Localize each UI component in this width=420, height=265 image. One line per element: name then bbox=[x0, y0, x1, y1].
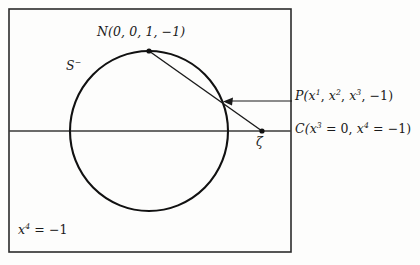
point-p-sep1: , bbox=[321, 88, 329, 103]
point-c-x4: x bbox=[357, 121, 364, 136]
north-pole-label: N(0, 0, 1, −1) bbox=[97, 26, 185, 39]
point-c-close: ) bbox=[406, 121, 411, 136]
projection-ray bbox=[149, 51, 262, 131]
point-p-x2: x bbox=[329, 88, 336, 103]
point-p-open: P( bbox=[295, 88, 309, 103]
point-p-sep3: , bbox=[361, 88, 369, 103]
point-p-minus-one: −1 bbox=[370, 88, 389, 103]
point-p-close: ) bbox=[388, 88, 393, 103]
hyperplane-label: x4 = −1 bbox=[18, 224, 68, 237]
north-pole-point bbox=[146, 48, 151, 53]
point-p-x1: x bbox=[309, 88, 316, 103]
point-c-open: C( bbox=[295, 121, 310, 136]
sphere-label-symbol: S bbox=[66, 58, 75, 73]
sphere-label-superscript: − bbox=[75, 58, 82, 67]
zeta-point bbox=[259, 128, 264, 133]
sphere-label: S− bbox=[66, 60, 81, 73]
point-c-x3: x bbox=[310, 121, 317, 136]
zeta-label-symbol: ζ bbox=[256, 134, 263, 149]
point-c-eq2: = −1 bbox=[369, 121, 406, 136]
hyperplane-equals: = −1 bbox=[30, 222, 67, 237]
north-pole-label-text: N(0, 0, 1, −1) bbox=[97, 24, 185, 39]
point-c-eq1: = 0, bbox=[322, 121, 357, 136]
point-c-label: C(x3 = 0, x4 = −1) bbox=[295, 123, 411, 136]
stereographic-projection-figure: N(0, 0, 1, −1) S− P(x1, x2, x3, −1) C(x3… bbox=[0, 0, 420, 265]
zeta-label: ζ bbox=[256, 136, 263, 149]
point-p-label: P(x1, x2, x3, −1) bbox=[295, 90, 393, 103]
point-p-sep2: , bbox=[341, 88, 349, 103]
